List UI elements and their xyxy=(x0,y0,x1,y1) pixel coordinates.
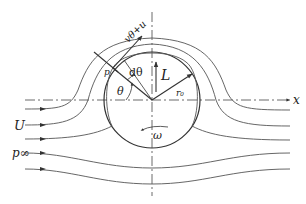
streamline-lower-1 xyxy=(25,153,290,168)
lift-label: L xyxy=(160,67,170,83)
freestream-pressure-label: p∞ xyxy=(12,146,30,160)
x-axis-label: x xyxy=(293,93,300,107)
angular-velocity-label: ω xyxy=(153,129,162,142)
inlet-arrow-2 xyxy=(40,123,46,127)
radius-r0-line xyxy=(152,74,192,100)
velocity-label: vθ+u xyxy=(122,18,149,45)
streamline-upper-1 xyxy=(25,38,290,110)
streamline-lower-2 xyxy=(25,169,290,184)
magnus-effect-diagram: vθ+u p dθ θ L r₀ x U p∞ ω xyxy=(0,0,306,204)
streamline-upper-2 xyxy=(25,44,290,126)
theta-label: θ xyxy=(117,85,124,98)
surface-pressure-label: p xyxy=(104,67,110,77)
radius-label: r₀ xyxy=(176,88,184,98)
inlet-arrow-1 xyxy=(40,107,46,111)
inlet-arrow-3 xyxy=(40,137,46,141)
dtheta-label: dθ xyxy=(129,66,143,79)
freestream-velocity-label: U xyxy=(14,118,26,133)
theta-arc xyxy=(126,84,132,100)
